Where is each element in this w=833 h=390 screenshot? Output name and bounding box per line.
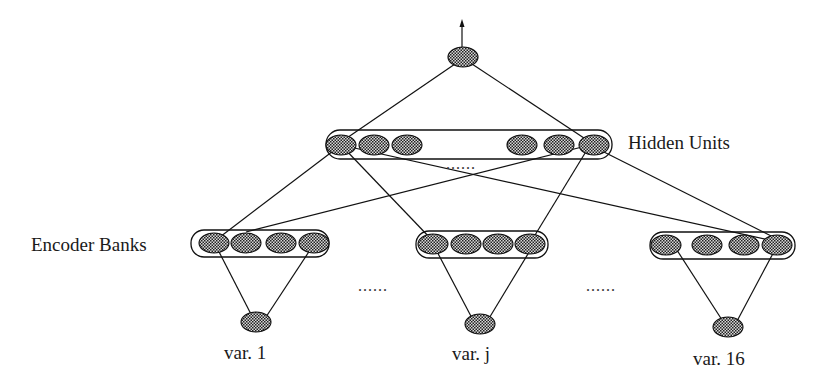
input-node-varj	[465, 314, 495, 334]
hidden-units	[326, 135, 609, 155]
bank-ellipsis-right: ......	[586, 277, 616, 295]
encoder-banks-label: Encoder Banks	[31, 234, 147, 256]
varj-label: var. j	[452, 343, 490, 365]
hidden-units-label: Hidden Units	[628, 132, 730, 154]
input-node-var16	[713, 317, 743, 337]
bank-ellipsis-left: ......	[358, 277, 388, 295]
network-diagram	[0, 0, 833, 390]
output-node	[448, 47, 478, 67]
var1-label: var. 1	[224, 342, 266, 364]
input-node-var1	[241, 312, 271, 332]
hidden-ellipsis: ......	[446, 155, 476, 173]
var16-label: var. 16	[693, 348, 745, 370]
